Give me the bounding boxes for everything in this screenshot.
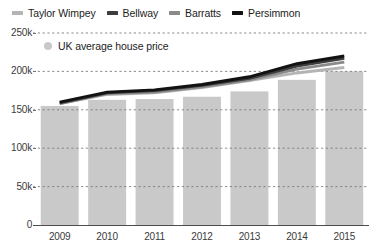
circle-dot-icon [44, 42, 52, 50]
legend-item-barratts[interactable]: Barratts [169, 8, 221, 19]
legend-label: Barratts [185, 8, 221, 19]
x-axis-tick-label: 2012 [191, 231, 212, 243]
y-axis-tick-label: 50k [0, 182, 32, 192]
legend-swatch-icon [232, 11, 243, 15]
bar [136, 99, 174, 225]
bar [41, 106, 79, 225]
chart-legend: Taylor Wimpey Bellway Barratts Persimmon [12, 5, 368, 21]
y-axis-tick-label: 200k [0, 66, 32, 76]
legend-item-persimmon[interactable]: Persimmon [232, 8, 300, 19]
legend-label: Bellway [123, 8, 158, 19]
x-axis-tick-label: 2011 [144, 231, 165, 243]
plot-svg [36, 33, 368, 225]
x-axis-tick-label: 2013 [239, 231, 260, 243]
legend-label: Persimmon [248, 8, 300, 19]
y-axis-tick-label: 100k [0, 143, 32, 153]
y-axis-tick-label: 250k [0, 28, 32, 38]
sublegend-uk-average[interactable]: UK average house price [44, 40, 168, 52]
house-price-chart: Taylor Wimpey Bellway Barratts Persimmon… [0, 0, 374, 250]
y-axis-tick-label: 0 [0, 220, 32, 230]
x-axis-line [33, 225, 369, 226]
legend-label: Taylor Wimpey [28, 8, 96, 19]
bar [183, 97, 221, 225]
bar [230, 91, 268, 225]
y-axis-tick-label: 150k [0, 105, 32, 115]
bar [278, 80, 316, 225]
plot-area [36, 33, 368, 225]
y-axis-labels: 250k 200k 150k 100k 50k 0 [0, 0, 32, 250]
x-axis-tick-label: 2014 [286, 231, 307, 243]
sublegend-label: UK average house price [58, 40, 168, 52]
x-axis-labels: 2009 2010 2011 2012 2013 2014 2015 [36, 231, 368, 245]
legend-swatch-icon [107, 11, 118, 15]
legend-item-bellway[interactable]: Bellway [107, 8, 158, 19]
x-axis-tick-label: 2010 [96, 231, 117, 243]
x-axis-tick-label: 2015 [334, 231, 355, 243]
legend-swatch-icon [169, 11, 180, 15]
bar [88, 100, 126, 225]
x-axis-tick-label: 2009 [49, 231, 70, 243]
